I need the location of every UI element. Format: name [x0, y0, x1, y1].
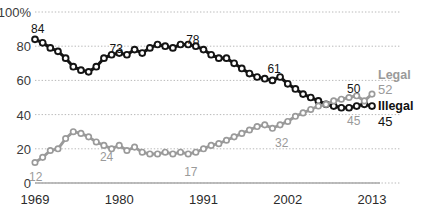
data-point-illegal — [338, 105, 344, 111]
data-point-illegal — [216, 55, 222, 61]
legend-label-legal[interactable]: Legal — [378, 69, 411, 82]
legend-value-legal: 52 — [378, 83, 392, 96]
data-point-legal — [147, 151, 152, 156]
data-point-illegal — [262, 76, 268, 82]
data-point-illegal — [47, 45, 53, 51]
data-point-legal — [208, 143, 213, 148]
data-point-illegal — [224, 55, 230, 61]
data-point-legal — [193, 150, 198, 155]
chart-container: 020406080100%196919801991200220138473786… — [0, 0, 427, 212]
data-point-label: 32 — [275, 137, 288, 149]
data-point-legal — [48, 148, 53, 153]
data-point-legal — [308, 107, 313, 112]
data-point-illegal — [201, 47, 207, 53]
x-axis-tick-label: 1980 — [89, 193, 149, 206]
data-point-legal — [185, 151, 190, 156]
data-point-label: 24 — [100, 151, 113, 163]
y-axis-tick-label: 20 — [17, 143, 31, 156]
data-point-legal — [78, 131, 83, 136]
data-point-illegal — [354, 103, 360, 109]
data-point-label: 73 — [110, 43, 123, 55]
data-point-illegal — [139, 50, 145, 56]
data-point-legal — [331, 98, 336, 103]
data-point-legal — [124, 148, 129, 153]
data-point-illegal — [40, 40, 46, 46]
data-point-legal — [346, 95, 351, 100]
data-point-illegal — [155, 42, 161, 48]
data-point-legal — [155, 151, 160, 156]
data-point-legal — [285, 119, 290, 124]
data-point-legal — [32, 160, 37, 165]
data-point-legal — [71, 129, 76, 134]
data-point-illegal — [247, 71, 253, 77]
data-point-illegal — [101, 55, 107, 61]
data-point-illegal — [93, 64, 99, 70]
data-point-legal — [163, 150, 168, 155]
data-point-illegal — [293, 86, 299, 92]
data-point-illegal — [308, 95, 314, 101]
data-point-label: 17 — [184, 166, 197, 178]
data-point-illegal — [178, 42, 184, 48]
data-point-legal — [277, 122, 282, 127]
data-point-legal — [178, 150, 183, 155]
data-point-legal — [40, 155, 45, 160]
data-point-legal — [239, 131, 244, 136]
data-point-illegal — [346, 105, 352, 111]
data-point-legal — [170, 151, 175, 156]
data-point-illegal — [124, 52, 130, 58]
data-point-illegal — [132, 47, 138, 53]
legend-label-illegal[interactable]: Illegal — [378, 100, 413, 113]
data-point-legal — [201, 146, 206, 151]
data-point-legal — [339, 97, 344, 102]
data-point-illegal — [270, 78, 276, 84]
legend-value-illegal: 45 — [378, 115, 392, 128]
data-point-legal — [316, 103, 321, 108]
data-point-label: 45 — [347, 115, 360, 127]
data-point-illegal — [239, 66, 245, 72]
data-point-illegal — [369, 103, 375, 109]
data-point-legal — [140, 150, 145, 155]
data-point-illegal — [231, 60, 237, 66]
line-chart-plot — [0, 0, 427, 212]
data-point-illegal — [162, 43, 168, 49]
data-point-illegal — [285, 81, 291, 87]
x-axis-tick-label: 2002 — [258, 193, 318, 206]
data-point-legal — [63, 136, 68, 141]
data-point-legal — [132, 144, 137, 149]
data-point-label: 61 — [267, 63, 280, 75]
data-point-legal — [231, 134, 236, 139]
data-point-illegal — [32, 36, 38, 42]
data-point-legal — [293, 114, 298, 119]
data-point-legal — [270, 126, 275, 131]
y-axis-tick-label: 60 — [17, 74, 31, 87]
data-point-illegal — [70, 64, 76, 70]
x-axis-tick-label: 2013 — [342, 193, 402, 206]
data-point-illegal — [78, 67, 84, 73]
data-point-label: 50 — [347, 83, 360, 95]
data-point-legal — [117, 143, 122, 148]
data-point-legal — [300, 110, 305, 115]
data-point-legal — [323, 102, 328, 107]
data-point-legal — [55, 146, 60, 151]
x-axis-tick-label: 1969 — [5, 193, 65, 206]
data-point-label: 12 — [29, 171, 42, 183]
y-axis-tick-label: 80 — [17, 40, 31, 53]
x-axis-tick-label: 1991 — [174, 193, 234, 206]
data-point-legal — [224, 138, 229, 143]
data-point-legal — [362, 98, 367, 103]
data-point-legal — [86, 134, 91, 139]
data-point-illegal — [300, 91, 306, 97]
data-point-illegal — [63, 55, 69, 61]
y-axis-tick-label: 100% — [0, 6, 31, 19]
data-point-legal — [101, 143, 106, 148]
data-point-illegal — [208, 52, 214, 58]
data-point-illegal — [86, 69, 92, 75]
data-point-label: 84 — [31, 23, 44, 35]
data-point-illegal — [170, 45, 176, 51]
data-point-legal — [247, 127, 252, 132]
data-point-legal — [262, 122, 267, 127]
data-point-legal — [369, 91, 374, 96]
data-point-label: 78 — [186, 34, 199, 46]
data-point-illegal — [254, 74, 260, 80]
data-point-illegal — [147, 45, 153, 51]
